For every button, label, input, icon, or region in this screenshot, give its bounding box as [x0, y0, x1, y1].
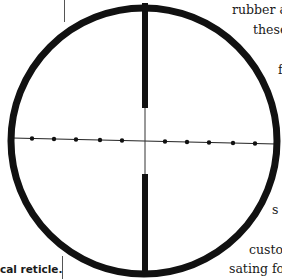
body-text-line-3: f — [278, 64, 282, 77]
body-text-line-1: rubber a — [232, 4, 282, 17]
top-post — [142, 3, 148, 108]
mil-dot — [74, 137, 78, 141]
mil-dot — [253, 141, 257, 145]
mil-dot — [163, 139, 167, 143]
body-text-line-2: these — [253, 24, 282, 37]
mil-dot — [207, 140, 211, 144]
mil-dot — [120, 138, 124, 142]
horizontal-crosshair — [12, 138, 276, 144]
reticle-diagram — [0, 0, 282, 279]
body-text-line-4: s — [272, 204, 278, 217]
mil-dot — [52, 137, 56, 141]
body-text-line-5: custo — [249, 244, 282, 257]
mil-dot — [185, 140, 189, 144]
reticle-figure — [0, 0, 282, 279]
bottom-post — [142, 174, 148, 276]
mil-dot — [30, 136, 34, 140]
mil-dot — [98, 138, 102, 142]
mil-dot — [231, 141, 235, 145]
figure-caption: cal reticle. — [0, 264, 62, 275]
body-text-line-6: sating for — [229, 263, 282, 276]
column-rule-top — [64, 0, 65, 22]
